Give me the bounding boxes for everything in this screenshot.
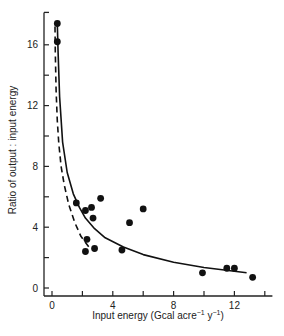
- data-point: [140, 206, 147, 213]
- data-point: [54, 20, 61, 27]
- data-point: [82, 207, 89, 214]
- data-point: [119, 247, 126, 254]
- x-tick-label: 0: [49, 300, 55, 311]
- data-point: [126, 219, 133, 226]
- y-tick-label: 0: [32, 283, 38, 294]
- y-axis-label: Ratio of output : input energy: [7, 86, 18, 214]
- x-axis-label: Input energy (Gcal acre−1 y−1): [92, 309, 224, 321]
- x-axis-label-superscript: −1: [197, 309, 205, 316]
- data-point: [231, 265, 238, 272]
- data-point: [97, 195, 104, 202]
- x-axis-label-superscript: −1: [212, 309, 220, 316]
- x-axis-label-text: y: [205, 310, 213, 321]
- data-point: [73, 199, 80, 206]
- y-tick-label: 16: [27, 39, 39, 50]
- data-point: [223, 265, 230, 272]
- data-point: [249, 274, 256, 281]
- data-point: [88, 204, 95, 211]
- data-point: [199, 269, 206, 276]
- x-tick-label: 12: [229, 300, 241, 311]
- data-point: [84, 236, 91, 243]
- data-points: [54, 20, 256, 281]
- data-point: [82, 248, 89, 255]
- fitted-curve-dashed: [55, 27, 90, 249]
- data-point: [90, 215, 97, 222]
- data-point: [54, 38, 61, 45]
- fitted-curve-solid: [57, 24, 246, 273]
- y-tick-label: 8: [32, 161, 38, 172]
- chart: 048121604812 Ratio of output : input ene…: [0, 0, 284, 336]
- data-point: [91, 245, 98, 252]
- y-tick-label: 4: [32, 222, 38, 233]
- x-axis-label-text: Input energy (Gcal acre: [92, 310, 197, 321]
- curves: [55, 24, 247, 273]
- x-axis-label-text: ): [220, 310, 223, 321]
- y-tick-label: 12: [27, 100, 39, 111]
